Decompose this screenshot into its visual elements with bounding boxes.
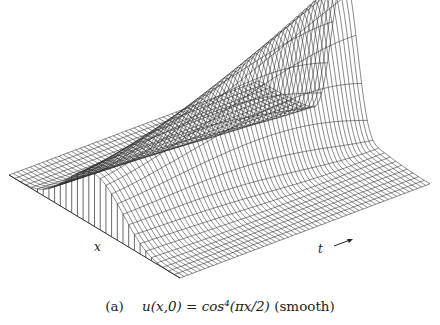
x-axis-label: x bbox=[94, 240, 101, 254]
t-axis-label: t bbox=[318, 242, 323, 256]
mesh-line-t bbox=[51, 147, 222, 262]
mesh-line-x bbox=[180, 184, 430, 278]
mesh-line-x bbox=[106, 35, 356, 185]
panel-tag: (a) bbox=[105, 298, 124, 314]
mesh-line-t bbox=[117, 98, 288, 237]
mesh-line-x bbox=[152, 165, 402, 257]
surface-mesh bbox=[9, 0, 430, 278]
caption-note: (smooth) bbox=[274, 298, 335, 314]
surface-plot bbox=[0, 0, 440, 285]
mesh-line-t bbox=[105, 108, 276, 242]
mesh-line-t bbox=[22, 165, 193, 273]
figure-caption: (a) u(x,0) = cos⁴(πx/2) (smooth) bbox=[0, 298, 440, 314]
mesh-line-t bbox=[26, 163, 197, 272]
mesh-line-x bbox=[140, 157, 390, 243]
mesh-line-t bbox=[13, 169, 184, 276]
mesh-line-x bbox=[15, 84, 265, 178]
caption-equation: u(x,0) = cos⁴(πx/2) bbox=[142, 298, 270, 314]
mesh-line-x bbox=[169, 177, 419, 271]
t-direction-arrow-icon bbox=[333, 237, 355, 249]
